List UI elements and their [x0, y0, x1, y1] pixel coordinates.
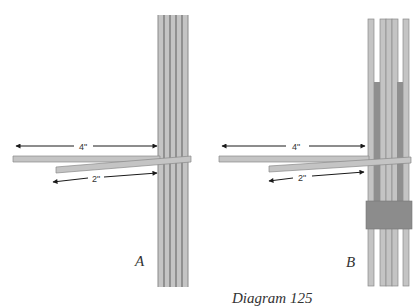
vertical-strip-bundle-a — [158, 15, 188, 287]
measure-label-short-b: 2" — [298, 173, 306, 183]
diagram-caption: Diagram 125 — [231, 290, 313, 306]
inserted-strip-left-b — [374, 82, 380, 202]
panel-a: 4" 2" A — [13, 15, 191, 287]
measure-label-long-b: 4" — [292, 142, 300, 152]
vertical-strips-b — [368, 19, 409, 286]
measure-label-short-a: 2" — [92, 174, 100, 184]
wrap-band-b — [366, 201, 412, 229]
inserted-strip-right-b — [397, 82, 403, 202]
dimension-arrow-short-a — [53, 178, 88, 182]
panel-b: 4" 2" B — [219, 19, 412, 286]
panel-label-a: A — [134, 253, 145, 269]
measure-label-long-a: 4" — [79, 142, 87, 152]
diagram-canvas: 4" 2" A 4" 2" B — [0, 0, 420, 308]
panel-label-b: B — [346, 254, 355, 270]
dimension-arrow-short-b — [269, 178, 293, 181]
